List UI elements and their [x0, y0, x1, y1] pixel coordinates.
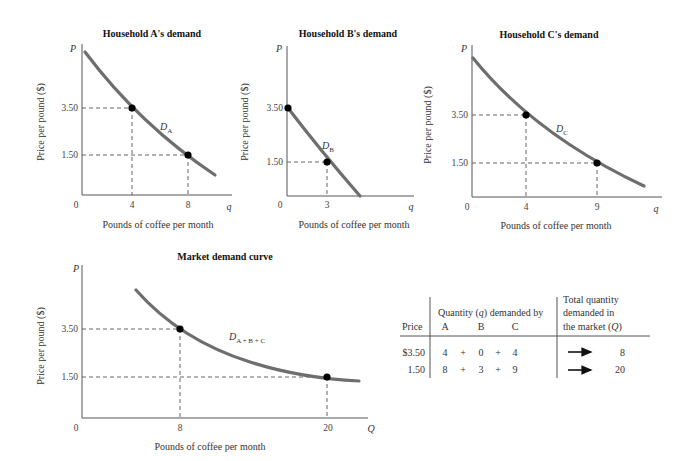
cell-b: 0 — [479, 347, 484, 358]
x-axis-label: Pounds of coffee per month — [501, 220, 612, 231]
cell-price: 1.50 — [408, 364, 426, 375]
table-row: 1.50 8 + 3 + 9 20 — [408, 364, 626, 375]
data-point — [128, 104, 135, 111]
plus-sign: + — [460, 347, 466, 358]
header-total-line3: the market (Q) — [563, 321, 622, 333]
y-axis-symbol: P — [460, 43, 467, 54]
x-tick: 9 — [595, 202, 600, 212]
demand-curve — [288, 108, 360, 196]
header-col-a: A — [441, 321, 449, 332]
cell-total: 8 — [620, 347, 625, 358]
x-axis-symbol: q — [654, 203, 659, 214]
cell-price: $3.50 — [403, 347, 426, 358]
chart-household-a: Household A's demand P Price per pound (… — [35, 28, 232, 230]
y-axis-symbol: P — [72, 263, 79, 274]
x-tick: 3 — [325, 200, 330, 210]
y-axis-label: Price per pound ($) — [239, 83, 251, 160]
header-col-c: C — [512, 321, 519, 332]
y-tick: 3.50 — [451, 110, 468, 120]
plus-sign: + — [460, 364, 466, 375]
chart-title: Household A's demand — [103, 28, 202, 39]
curve-label: DA + B + C — [228, 331, 265, 345]
chart-household-c: Household C's demand P Price per pound (… — [422, 29, 662, 231]
header-total-line2: demanded in — [563, 307, 614, 318]
data-point — [176, 325, 183, 332]
plus-sign: + — [495, 347, 501, 358]
y-axis-label: Price per pound ($) — [35, 307, 47, 384]
header-total-line1: Total quantity — [563, 294, 619, 305]
demand-curve — [136, 290, 359, 381]
origin-label: 0 — [465, 202, 470, 212]
data-point — [284, 104, 291, 111]
header-price: Price — [402, 321, 423, 332]
header-quantity-group: Quantity (q) demanded by — [438, 307, 543, 319]
y-axis-symbol: P — [69, 43, 76, 54]
origin-label: 0 — [74, 423, 79, 433]
x-axis-label: Pounds of coffee per month — [155, 441, 266, 452]
demand-curve — [85, 52, 215, 175]
cell-total: 20 — [615, 364, 625, 375]
x-tick: 4 — [524, 202, 529, 212]
header-col-b: B — [478, 321, 485, 332]
data-point — [184, 151, 191, 158]
y-axis-label: Price per pound ($) — [422, 86, 434, 163]
charts-canvas: Household A's demand P Price per pound (… — [0, 0, 693, 461]
data-point — [522, 111, 529, 118]
x-tick: 8 — [178, 423, 183, 433]
x-tick: 8 — [186, 200, 191, 210]
chart-title: Market demand curve — [177, 251, 273, 262]
y-tick: 3.50 — [61, 324, 78, 334]
cell-c: 4 — [513, 347, 518, 358]
cell-b: 3 — [479, 364, 484, 375]
y-axis-label: Price per pound ($) — [35, 83, 47, 160]
cell-a: 8 — [443, 364, 448, 375]
x-axis-symbol: Q — [367, 423, 375, 434]
y-tick: 1.50 — [451, 158, 468, 168]
x-axis-label: Pounds of coffee per month — [103, 219, 214, 230]
x-axis-label: Pounds of coffee per month — [299, 219, 410, 230]
y-tick: 3.50 — [61, 103, 78, 113]
chart-household-b: Household B's demand P Price per pound (… — [239, 28, 414, 230]
y-tick: 1.50 — [61, 372, 78, 382]
market-demand-table: Price Quantity (q) demanded by A B C Tot… — [400, 294, 650, 378]
chart-title: Household B's demand — [299, 28, 398, 39]
demand-curve — [473, 58, 644, 186]
chart-market-demand: Market demand curve P Price per pound ($… — [35, 251, 375, 452]
cell-a: 4 — [443, 347, 448, 358]
origin-label: 0 — [74, 200, 79, 210]
y-tick: 1.50 — [61, 150, 78, 160]
cell-c: 9 — [513, 364, 518, 375]
data-point — [323, 158, 330, 165]
table-row: $3.50 4 + 0 + 4 8 — [403, 347, 626, 358]
y-tick: 1.50 — [266, 157, 283, 167]
y-axis-symbol: P — [275, 43, 282, 54]
data-point — [593, 159, 600, 166]
data-point — [323, 373, 330, 380]
plus-sign: + — [495, 364, 501, 375]
y-tick: 3.50 — [266, 103, 283, 113]
x-axis-symbol: q — [227, 201, 232, 212]
x-tick: 20 — [323, 423, 333, 433]
x-axis-symbol: q — [409, 201, 414, 212]
x-tick: 4 — [130, 200, 135, 210]
origin-label: 0 — [278, 200, 283, 210]
chart-title: Household C's demand — [500, 29, 599, 40]
